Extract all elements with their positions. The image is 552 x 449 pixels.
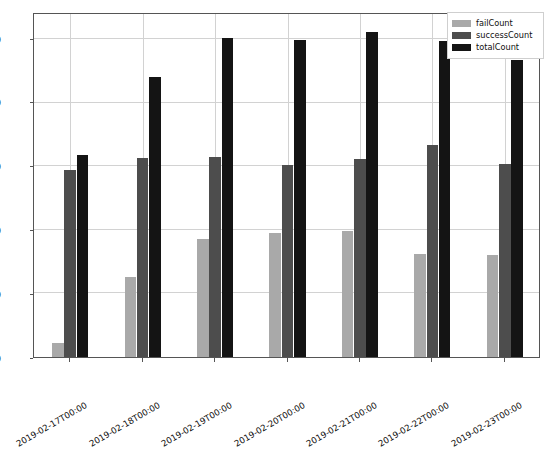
bar-totalcount [294,40,306,357]
x-axis-tick-mark [287,358,288,362]
bar-failcount [52,343,64,357]
bar-totalcount [149,77,161,357]
bar-group [487,14,523,357]
legend-label-successcount: successCount [476,31,532,39]
legend-label-totalcount: totalCount [476,43,519,51]
y-axis-tick-label: 2000 [0,97,1,108]
bar-failcount [269,233,281,357]
x-axis-tick-mark [431,358,432,362]
legend-item-totalcount: totalCount [452,42,539,53]
bar-successcount [354,159,366,357]
bar-failcount [487,255,499,357]
x-axis-tick-label: 2019-02-22T00:00 [377,400,451,449]
bar-failcount [197,239,209,357]
x-axis-tick-label: 2019-02-23T00:00 [449,400,523,449]
x-axis-tick-label: 2019-02-21T00:00 [304,400,378,449]
y-axis-tick-label: 0 [0,353,1,364]
bar-successcount [209,157,221,357]
y-axis-tick-label: 1500 [0,161,1,172]
legend-swatch-failcount [452,20,471,27]
x-axis-tick-mark [69,358,70,362]
bar-totalcount [511,60,523,357]
x-axis-tick-mark [214,358,215,362]
legend-swatch-successcount [452,32,471,39]
legend-swatch-totalcount [452,44,471,51]
bar-totalcount [222,38,234,357]
bar-failcount [125,277,137,357]
y-axis-tick-mark [30,358,34,359]
bar-failcount [414,254,426,357]
bar-group [342,14,378,357]
bar-successcount [499,164,511,357]
y-axis-tick-label: 1000 [0,225,1,236]
x-axis-tick-mark [359,358,360,362]
bar-successcount [137,158,149,357]
chart-legend: failCount successCount totalCount [447,12,544,59]
plot-area [33,13,540,358]
x-axis-tick-mark [142,358,143,362]
bar-totalcount [366,32,378,357]
bar-group [125,14,161,357]
bar-group [414,14,450,357]
bar-group [197,14,233,357]
bar-totalcount [439,41,451,357]
bar-successcount [282,165,294,357]
legend-item-failcount: failCount [452,18,539,29]
y-axis-tick-label: 2500 [0,33,1,44]
x-axis-tick-label: 2019-02-19T00:00 [160,400,234,449]
x-axis-tick-label: 2019-02-17T00:00 [15,400,89,449]
bar-totalcount [77,155,89,357]
bar-group [52,14,88,357]
bar-group [269,14,305,357]
bar-successcount [64,170,76,357]
x-axis-tick-mark [504,358,505,362]
y-axis-tick-label: 500 [0,289,1,300]
bar-successcount [427,145,439,357]
x-axis-tick-label: 2019-02-20T00:00 [232,400,306,449]
legend-label-failcount: failCount [476,19,513,27]
bar-failcount [342,231,354,357]
legend-item-successcount: successCount [452,30,539,41]
x-axis-tick-label: 2019-02-18T00:00 [87,400,161,449]
